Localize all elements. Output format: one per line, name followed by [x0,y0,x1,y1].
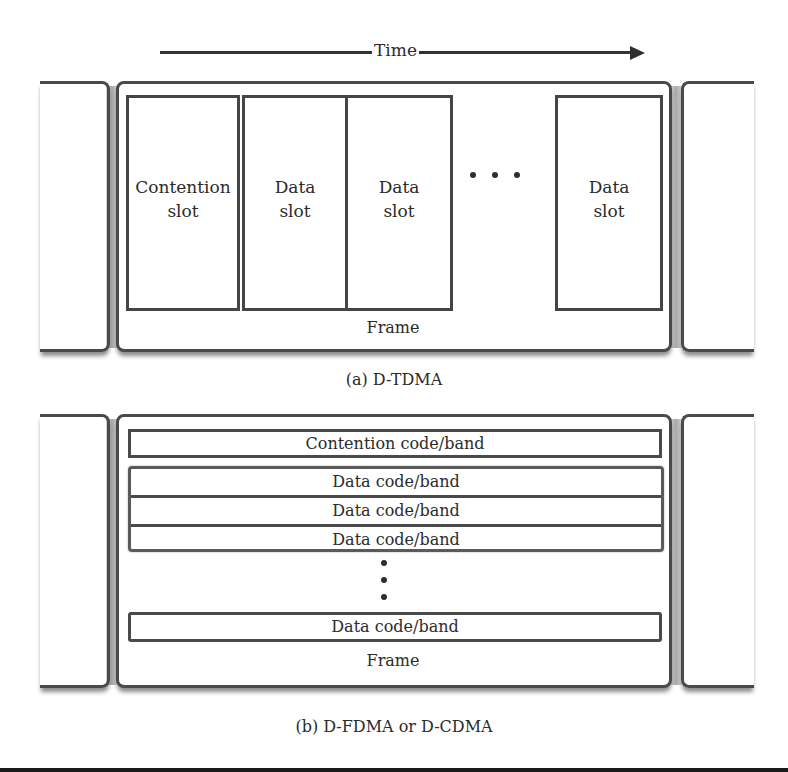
data-slot-n: Data slot [555,95,663,311]
dot [470,172,476,178]
data-band-1: Data code/band [131,469,661,498]
contention-slot: Contention slot [126,95,240,311]
time-arrow-line-right [405,51,633,54]
data-band-2: Data code/band [131,498,661,527]
frame-a-label: Frame [343,318,443,338]
data-slot-1: Data slot [242,95,348,311]
slot-label-line1: Data [379,175,420,199]
previous-frame-stub [40,81,110,352]
panel-b-caption: (b) D-FDMA or D-CDMA [244,717,544,737]
page-bottom-rule [0,768,788,772]
slot-label-line2: slot [279,199,310,223]
frame-b-label: Frame [343,651,443,671]
slot-label-line2: slot [383,199,414,223]
horizontal-dots-icon [470,172,520,178]
slot-label-line1: Data [275,175,316,199]
arrow-head-icon [630,46,645,60]
slot-label-line2: slot [167,199,198,223]
slot-label-line2: slot [593,199,624,223]
dot [381,594,387,600]
data-band-3: Data code/band [131,527,661,553]
data-band-n: Data code/band [128,612,662,642]
time-arrow-line-left [160,51,375,54]
slot-label-line1: Data [589,175,630,199]
data-band-group: Data code/band Data code/band Data code/… [128,466,664,552]
next-frame-stub [681,81,754,352]
dot [514,172,520,178]
contention-band: Contention code/band [128,429,662,458]
previous-frame-stub [40,414,110,688]
time-axis-label: Time [372,40,419,60]
vertical-dots-icon [381,560,387,600]
panel-a-caption: (a) D-TDMA [244,370,544,390]
data-slot-2: Data slot [345,95,453,311]
slot-label-line1: Contention [135,175,230,199]
dot [492,172,498,178]
next-frame-stub [681,414,754,688]
dot [381,560,387,566]
dot [381,577,387,583]
